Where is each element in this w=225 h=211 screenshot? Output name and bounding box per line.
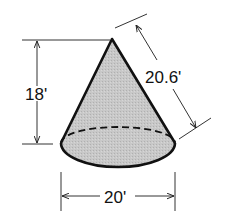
cone-diagram: 18' 20.6' 20' bbox=[0, 0, 225, 211]
diameter-label: 20' bbox=[104, 188, 126, 207]
slant-height-label: 20.6' bbox=[145, 68, 181, 87]
cone-shape bbox=[61, 39, 175, 167]
diameter-dimension: 20' bbox=[61, 172, 175, 211]
height-label: 18' bbox=[25, 85, 47, 104]
